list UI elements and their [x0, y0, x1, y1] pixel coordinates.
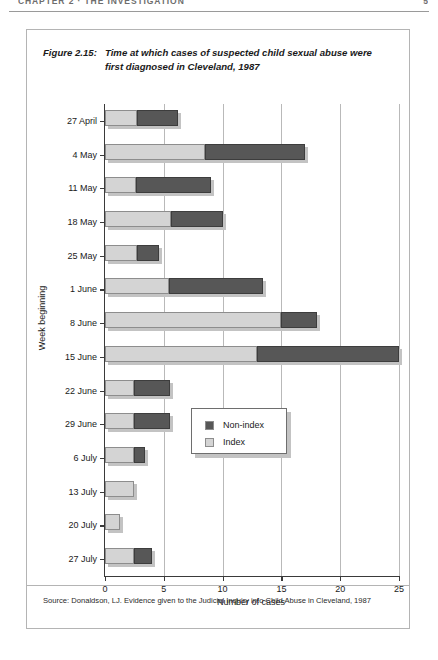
source-divider [27, 585, 409, 586]
bar-row [105, 245, 399, 261]
bar-row [105, 211, 399, 227]
bar-row [105, 144, 399, 160]
y-axis-tick [100, 222, 105, 223]
x-axis-tick [164, 576, 165, 581]
header-divider-rule [9, 11, 429, 12]
y-axis-tick-label: 8 June [70, 318, 97, 328]
x-axis-tick [223, 576, 224, 581]
bar-segment-index [105, 177, 136, 193]
y-axis-tick [100, 559, 105, 560]
bar-segment-index [105, 245, 137, 261]
x-axis-tick [281, 576, 282, 581]
figure-label: Figure 2.15: [43, 46, 105, 60]
y-axis-tick-label: 18 May [67, 217, 97, 227]
bar-row [105, 110, 399, 126]
bar-row [105, 514, 399, 530]
bar-segment-non-index [205, 144, 305, 160]
y-axis-tick-label: 29 June [65, 419, 97, 429]
figure-source-note: Source: Donaldson, LJ. Evidence given to… [43, 596, 371, 606]
x-gridline [340, 104, 341, 576]
plot-inner [105, 104, 399, 576]
bar-segment-index [105, 211, 171, 227]
y-axis-tick [100, 357, 105, 358]
y-axis-tick [100, 155, 105, 156]
x-gridline [223, 104, 224, 576]
bar-row [105, 312, 399, 328]
legend-swatch-non-index [205, 421, 214, 430]
x-axis-tick [105, 576, 106, 581]
y-axis-tick-label: 27 April [67, 116, 97, 126]
bar-row [105, 278, 399, 294]
y-axis-tick [100, 525, 105, 526]
bar-row [105, 380, 399, 396]
bar-segment-index [105, 447, 134, 463]
y-axis-tick [100, 492, 105, 493]
legend-box: Non-indexIndex [191, 408, 287, 454]
y-axis-tick-label: 27 July [68, 554, 97, 564]
bar-segment-index [105, 278, 169, 294]
y-axis-tick [100, 323, 105, 324]
bar-segment-non-index [281, 312, 316, 328]
figure-container: Figure 2.15: Time at which cases of susp… [26, 29, 410, 629]
y-axis-tick [100, 289, 105, 290]
figure-caption: Figure 2.15: Time at which cases of susp… [43, 46, 395, 73]
bar-segment-index [105, 514, 120, 530]
bar-segment-non-index [136, 177, 211, 193]
x-axis-tick [340, 576, 341, 581]
y-axis-tick-label: 1 June [70, 284, 97, 294]
chart-plot-wrapper: Week beginning 051015202527 April4 May11… [27, 82, 411, 582]
bar-segment-index [105, 380, 134, 396]
y-axis-tick-label: 11 May [68, 183, 97, 193]
y-axis-title: Week beginning [35, 82, 49, 554]
y-axis-tick-label: 20 July [68, 520, 97, 530]
bar-segment-index [105, 413, 134, 429]
y-axis-tick [100, 188, 105, 189]
x-gridline [164, 104, 165, 576]
bar-row [105, 481, 399, 497]
legend-label: Non-index [223, 420, 264, 430]
bar-segment-index [105, 312, 281, 328]
bar-segment-index [105, 346, 257, 362]
y-axis-title-text: Week beginning [37, 286, 47, 350]
legend-label: Index [223, 437, 245, 447]
bar-segment-non-index [137, 245, 159, 261]
bar-segment-index [105, 548, 134, 564]
y-axis-tick-label: 22 June [65, 386, 97, 396]
plot-area: 051015202527 April4 May11 May18 May25 Ma… [104, 104, 399, 577]
page-number: 5 [423, 0, 428, 6]
x-gridline [399, 104, 400, 576]
bar-segment-non-index [134, 447, 145, 463]
chart-legend: Non-indexIndex [191, 408, 287, 454]
bar-segment-non-index [134, 548, 152, 564]
bar-segment-non-index [257, 346, 399, 362]
figure-title: Time at which cases of suspected child s… [105, 46, 389, 73]
bar-row [105, 177, 399, 193]
bar-segment-non-index [169, 278, 263, 294]
y-axis-tick [100, 391, 105, 392]
legend-item: Index [205, 436, 245, 448]
legend-swatch-index [205, 438, 214, 447]
bar-row [105, 548, 399, 564]
bar-segment-index [105, 144, 205, 160]
x-axis-tick [399, 576, 400, 581]
y-axis-tick-label: 4 May [72, 150, 97, 160]
bar-segment-non-index [134, 380, 169, 396]
y-axis-tick [100, 256, 105, 257]
y-axis-tick-label: 13 July [68, 487, 97, 497]
y-axis-tick-label: 15 June [65, 352, 97, 362]
bar-segment-index [105, 481, 134, 497]
y-axis-tick [100, 458, 105, 459]
y-axis-tick [100, 424, 105, 425]
bar-segment-index [105, 110, 137, 126]
page-running-header: CHAPTER 2 · THE INVESTIGATION 5 [0, 0, 438, 18]
bar-segment-non-index [134, 413, 169, 429]
running-head-text: CHAPTER 2 · THE INVESTIGATION [18, 0, 185, 6]
y-axis-tick-label: 25 May [67, 251, 97, 261]
y-axis-tick [100, 121, 105, 122]
y-axis-tick-label: 6 July [73, 453, 97, 463]
bar-segment-non-index [137, 110, 178, 126]
bar-segment-non-index [171, 211, 223, 227]
bar-row [105, 346, 399, 362]
legend-item: Non-index [205, 419, 264, 431]
x-gridline [281, 104, 282, 576]
